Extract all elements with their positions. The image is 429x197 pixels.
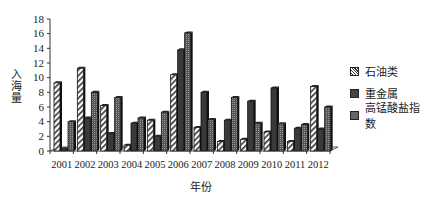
svg-text:2003: 2003 xyxy=(98,159,119,170)
svg-text:12: 12 xyxy=(33,57,44,69)
svg-text:2009: 2009 xyxy=(238,159,259,170)
dotted-swatch-icon xyxy=(350,111,359,120)
solid-swatch-icon xyxy=(350,89,359,98)
svg-text:2010: 2010 xyxy=(261,159,282,170)
y-axis-label: 入海量 xyxy=(8,68,24,104)
legend: 石油类 重金属 高锰酸盐指数 xyxy=(350,60,429,126)
svg-text:2: 2 xyxy=(39,130,45,142)
bars xyxy=(54,31,333,151)
svg-text:18: 18 xyxy=(33,13,45,25)
svg-text:2002: 2002 xyxy=(75,159,96,170)
svg-text:16: 16 xyxy=(33,27,45,39)
x-axis-label: 年份 xyxy=(190,178,212,194)
svg-text:0: 0 xyxy=(39,145,45,157)
svg-text:2011: 2011 xyxy=(285,159,306,170)
legend-item-oil: 石油类 xyxy=(350,60,429,82)
svg-text:14: 14 xyxy=(33,42,45,54)
svg-text:2008: 2008 xyxy=(215,159,236,170)
hatch-swatch-icon xyxy=(350,67,359,76)
svg-text:2001: 2001 xyxy=(51,159,72,170)
svg-text:2007: 2007 xyxy=(191,159,212,170)
svg-text:2005: 2005 xyxy=(145,159,166,170)
svg-text:2004: 2004 xyxy=(121,159,143,170)
svg-text:6: 6 xyxy=(39,101,45,113)
svg-text:10: 10 xyxy=(33,71,45,83)
svg-text:4: 4 xyxy=(39,115,45,127)
svg-text:2006: 2006 xyxy=(168,159,189,170)
svg-text:8: 8 xyxy=(39,86,45,98)
legend-item-permanganate: 高锰酸盐指数 xyxy=(350,104,429,126)
svg-text:2012: 2012 xyxy=(308,159,329,170)
legend-label: 高锰酸盐指数 xyxy=(365,99,429,131)
legend-label: 石油类 xyxy=(365,63,398,79)
